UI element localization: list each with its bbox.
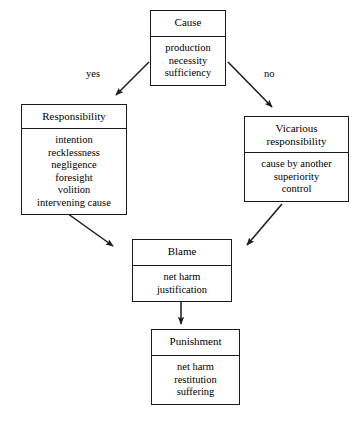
- edge-vicarious-to-blame: [247, 204, 282, 245]
- node-vicarious-responsibility-items: cause by another superiority control: [245, 153, 348, 201]
- node-responsibility-items: intention recklessness negligence foresi…: [22, 129, 126, 214]
- node-punishment-title: Punishment: [152, 330, 239, 356]
- node-responsibility-title: Responsibility: [22, 105, 126, 129]
- node-cause-items: production necessity sufficiency: [151, 37, 225, 85]
- node-blame-items: net harm justification: [133, 266, 231, 301]
- node-punishment[interactable]: Punishment net harm restitution sufferin…: [151, 329, 240, 405]
- node-responsibility[interactable]: Responsibility intention recklessness ne…: [21, 104, 127, 215]
- node-punishment-items: net harm restitution suffering: [152, 356, 239, 404]
- node-vicarious-responsibility-title: Vicarious responsibility: [245, 117, 348, 153]
- diagram-canvas: Cause production necessity sufficiency R…: [0, 0, 360, 422]
- edge-label-no: no: [264, 68, 275, 80]
- edge-label-yes: yes: [86, 68, 100, 80]
- node-cause-title: Cause: [151, 11, 225, 37]
- node-cause[interactable]: Cause production necessity sufficiency: [150, 10, 226, 86]
- node-blame[interactable]: Blame net harm justification: [132, 239, 232, 302]
- edge-cause-to-responsibility: [116, 62, 149, 95]
- node-blame-title: Blame: [133, 240, 231, 266]
- edge-responsibility-to-blame: [64, 211, 113, 246]
- node-vicarious-responsibility[interactable]: Vicarious responsibility cause by anothe…: [244, 116, 349, 202]
